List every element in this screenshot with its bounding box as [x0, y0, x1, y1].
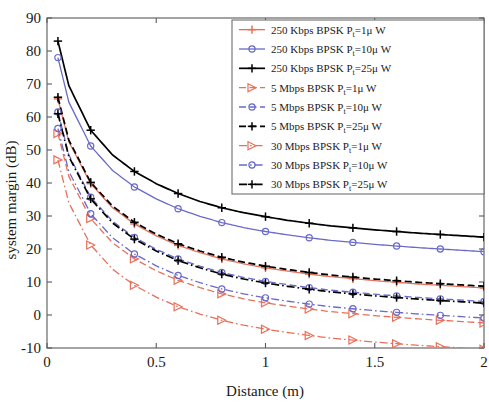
x-tick-label: 2 [480, 354, 488, 370]
y-tick-label: 50 [26, 142, 41, 158]
y-tick-label: 20 [26, 241, 41, 257]
y-tick-label: 60 [26, 109, 41, 125]
y-axis-label: system margin (dB) [3, 141, 20, 260]
y-tick-label: 10 [26, 274, 41, 290]
y-tick-label: 0 [34, 307, 42, 323]
y-tick-label: 90 [26, 10, 41, 26]
figure-container: -100102030405060708090 00.511.52 system … [0, 0, 489, 402]
y-tick-label: 30 [26, 208, 41, 224]
chart-legend: 250 Kbps BPSK Pt=1μ W250 Kbps BPSK Pt=10… [232, 20, 484, 194]
x-tick-label: 0.5 [147, 354, 166, 370]
x-tick-label: 1.5 [365, 354, 384, 370]
y-tick-label: 40 [26, 175, 41, 191]
y-tick-label: 80 [26, 43, 41, 59]
y-tick-label: 70 [26, 76, 41, 92]
x-tick-label: 0 [43, 354, 51, 370]
y-tick-label: -10 [21, 340, 41, 356]
x-axis-label: Distance (m) [226, 383, 304, 400]
x-tick-label: 1 [262, 354, 270, 370]
system-margin-vs-distance-chart: -100102030405060708090 00.511.52 system … [0, 0, 489, 402]
